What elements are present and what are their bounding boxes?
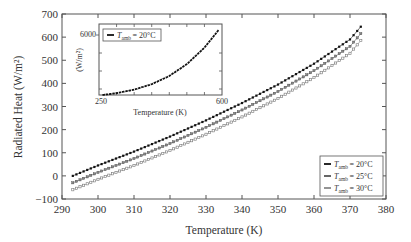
x-tick-label: 360 (306, 203, 323, 215)
x-axis-title: Temperature (K) (186, 224, 263, 237)
radiated-heat-chart: 290300310320330340350360370380 −10001002… (0, 0, 411, 242)
x-tick-label: 330 (198, 203, 215, 215)
y-axis-title: Radiated Heat (W/m²) (12, 56, 25, 159)
inset-xtick-600: 600 (216, 97, 228, 106)
y-tick-label: 200 (42, 124, 59, 136)
y-tick-label: 500 (42, 54, 59, 66)
inset-ytick-6000: 6000 (80, 30, 96, 39)
x-tick-label: 310 (126, 203, 143, 215)
inset-xtick-250: 250 (95, 97, 107, 106)
y-tick-label: 100 (42, 147, 59, 159)
x-tick-label: 300 (90, 203, 107, 215)
y-tick-label: 400 (42, 77, 59, 89)
y-tick-label: −100 (35, 193, 58, 205)
x-tick-label: 320 (162, 203, 179, 215)
x-tick-label: 370 (342, 203, 359, 215)
x-tick-label: 340 (234, 203, 251, 215)
inset-x-axis-title: Temperature (K) (133, 108, 187, 117)
inset-y-axis-title: (W/m²) (75, 48, 84, 72)
y-tick-label: 300 (42, 101, 59, 113)
legend: Tamb= 20°C Tamb= 25°C Tamb= 30°C (320, 156, 383, 196)
y-tick-label: 600 (42, 31, 59, 43)
x-tick-label: 350 (270, 203, 287, 215)
y-tick-label: 0 (53, 170, 59, 182)
x-tick-label: 380 (378, 203, 395, 215)
inset-chart: 6000 250 600 Temperature (K) (W/m²) Tamb… (75, 24, 228, 117)
y-tick-label: 700 (42, 8, 59, 20)
